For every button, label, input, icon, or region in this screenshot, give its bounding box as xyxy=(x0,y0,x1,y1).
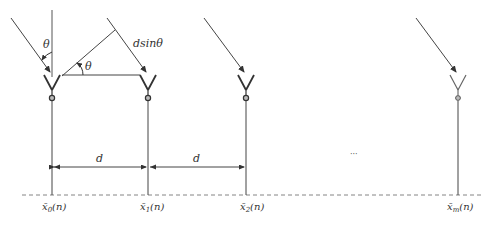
output-label-xm: x̄m(n) xyxy=(447,201,474,214)
antenna-element-1 xyxy=(140,75,156,195)
antenna-element-0 xyxy=(44,75,60,195)
spacing-label-1: d xyxy=(96,152,103,165)
theta-label-mid: θ xyxy=(85,60,92,73)
path-difference-label: dsinθ xyxy=(133,37,163,50)
theta-label-top: θ xyxy=(43,38,50,51)
output-label-x2: x̄2(n) xyxy=(240,201,264,214)
antenna-element-2 xyxy=(238,75,254,195)
array-diagram: θ θ dsinθ d d ··· x̄ xyxy=(0,0,494,226)
ellipsis: ··· xyxy=(350,150,358,159)
output-label-x0: x̄0(n) xyxy=(42,201,66,214)
output-label-x1: x̄1(n) xyxy=(140,201,164,214)
incident-ray-m xyxy=(416,18,456,72)
spacing-label-2: d xyxy=(193,152,200,165)
antenna-element-m xyxy=(450,75,466,195)
incident-ray-2 xyxy=(204,18,244,72)
angle-arc-top xyxy=(42,52,52,60)
angle-arc-mid xyxy=(77,63,83,75)
